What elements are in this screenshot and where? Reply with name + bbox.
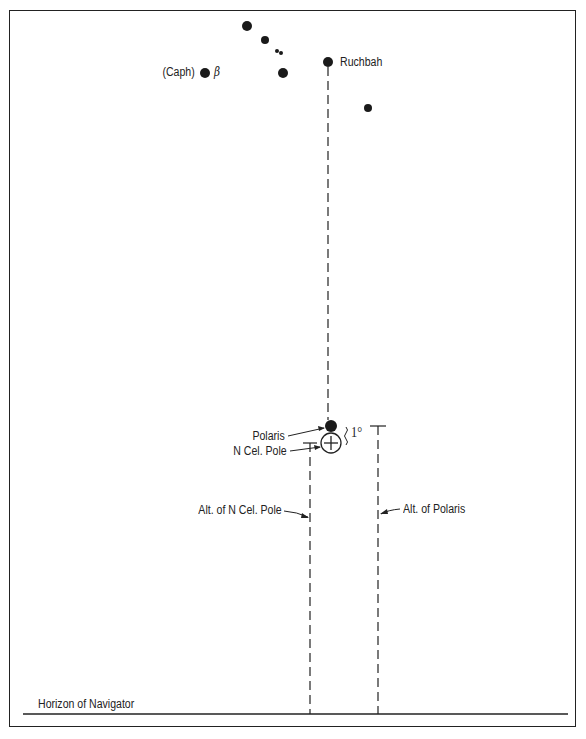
caph-label: (Caph) [163, 65, 195, 79]
star-3 [278, 68, 288, 78]
star-2 [261, 36, 269, 44]
polaris-label: Polaris [253, 429, 285, 443]
beta-label: β [214, 65, 220, 79]
alt-pole-arrow-icon [301, 513, 309, 518]
horizon-label: Horizon of Navigator [38, 697, 134, 711]
pole-arrow-icon [314, 445, 321, 450]
one-degree-label: 1° [351, 425, 362, 441]
star-ruchbah [323, 57, 333, 67]
celestial-pole-symbol [321, 433, 341, 453]
star-top [242, 21, 252, 31]
star-polaris [325, 420, 337, 432]
alt-polaris-label: Alt. of Polaris [403, 502, 465, 516]
n-cel-pole-label: N Cel. Pole [234, 444, 287, 458]
star-double-a [275, 49, 279, 53]
star-caph [200, 68, 210, 78]
polaris-arrow-icon [318, 426, 325, 431]
polaris-pointer-line [288, 428, 324, 436]
alt-n-cel-pole-label: Alt. of N Cel. Pole [199, 503, 282, 517]
alt-polaris-arrow-icon [380, 509, 388, 514]
one-degree-brace-icon [345, 427, 348, 445]
alt-n-cel-pole-line [303, 443, 317, 714]
star-double-b [279, 51, 283, 55]
ruchbah-label: Ruchbah [340, 55, 382, 69]
diagram-canvas [0, 0, 586, 739]
star-right [364, 104, 372, 112]
alt-polaris-line [370, 426, 386, 714]
